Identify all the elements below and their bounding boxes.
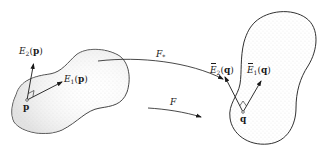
label-point-p: p (23, 103, 29, 112)
left-region (12, 49, 129, 133)
subscript-star: * (162, 53, 165, 60)
diagram-canvas: E2(p) E1(p) p E2(q) E1(q) q F* F (0, 0, 324, 158)
symbol-e: E (19, 46, 26, 56)
point-p (26, 99, 29, 102)
label-e1-p: E1(p) (64, 75, 88, 85)
symbol-ebar: E (247, 65, 254, 75)
paren: ) (267, 65, 271, 75)
paren: ) (84, 74, 88, 84)
label-e2bar-q: E2(q) (210, 66, 234, 76)
map-arrow (148, 108, 201, 117)
label-pushforward: F* (156, 50, 165, 60)
label-e1bar-q: E1(q) (247, 66, 271, 76)
paren: ) (230, 65, 234, 75)
point-q (242, 111, 245, 114)
symbol-e: E (64, 74, 71, 84)
label-point-q: q (240, 115, 246, 124)
right-region (230, 12, 316, 145)
label-map-f: F (170, 98, 176, 107)
symbol-ebar: E (210, 65, 217, 75)
label-e2-p: E2(p) (19, 47, 43, 57)
paren: ) (39, 46, 43, 56)
diagram-svg (0, 0, 324, 158)
